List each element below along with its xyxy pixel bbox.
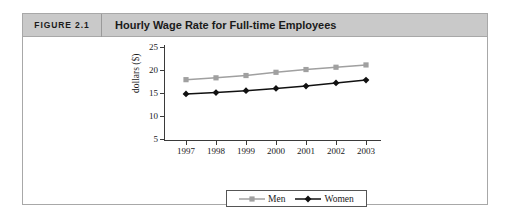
chart-area: dollars ($) 510152025 199719981999200020…: [23, 37, 487, 205]
legend-item: Women: [295, 194, 353, 204]
data-point: [333, 79, 340, 86]
y-tick-label: 20: [149, 65, 158, 75]
y-tick-label: 10: [149, 111, 158, 121]
figure-container: FIGURE 2.1 Hourly Wage Rate for Full-tim…: [22, 13, 488, 205]
legend-label: Women: [324, 194, 353, 204]
x-tick-label: 2003: [357, 146, 375, 156]
data-point: [363, 62, 368, 67]
x-tick-label: 2000: [267, 146, 285, 156]
diamond-marker-icon: [295, 194, 321, 204]
data-point: [213, 89, 220, 96]
data-point: [213, 75, 218, 80]
data-point: [183, 77, 188, 82]
y-tick-label: 5: [154, 134, 159, 144]
data-point: [303, 67, 308, 72]
data-point: [243, 73, 248, 78]
plot-region: 510152025 1997199819992000200120022003: [164, 47, 380, 139]
legend-item: Men: [239, 194, 285, 204]
y-tick-label: 25: [149, 42, 158, 52]
figure-number-label: FIGURE 2.1: [23, 20, 101, 30]
x-tick-label: 2002: [327, 146, 345, 156]
data-point: [363, 77, 370, 84]
data-point: [183, 91, 190, 98]
data-point: [303, 83, 310, 90]
figure-title: Hourly Wage Rate for Full-time Employees: [102, 19, 336, 31]
chart-legend: MenWomen: [226, 190, 367, 207]
x-tick-label: 2001: [297, 146, 315, 156]
x-tick-label: 1997: [177, 146, 195, 156]
legend-label: Men: [268, 194, 285, 204]
data-point: [333, 65, 338, 70]
data-point: [273, 70, 278, 75]
x-tick-label: 1998: [207, 146, 225, 156]
series-plot: [164, 47, 381, 143]
data-point: [243, 87, 250, 94]
y-tick-label: 15: [149, 88, 158, 98]
data-point: [273, 85, 280, 92]
x-tick-label: 1999: [237, 146, 255, 156]
figure-header: FIGURE 2.1 Hourly Wage Rate for Full-tim…: [23, 14, 487, 37]
y-axis-title: dollars ($): [131, 54, 141, 93]
square-marker-icon: [239, 194, 265, 204]
